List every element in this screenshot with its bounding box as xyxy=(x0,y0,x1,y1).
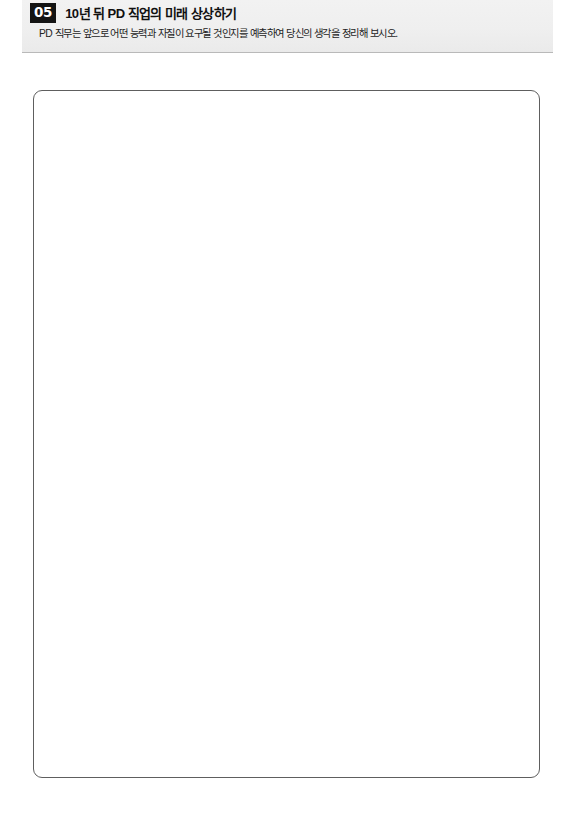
page-title: 10년 뒤 PD 직업의 미래 상상하기 xyxy=(65,7,237,20)
answer-box[interactable] xyxy=(33,90,540,778)
instruction-text: PD 직무는 앞으로 어떤 능력과 자질이 요구될 것인지를 예측하여 당신의 … xyxy=(39,27,398,40)
header-band: 05 10년 뒤 PD 직업의 미래 상상하기 PD 직무는 앞으로 어떤 능력… xyxy=(22,0,553,53)
answer-text-area[interactable] xyxy=(34,91,539,777)
section-number-badge: 05 xyxy=(30,3,56,24)
worksheet-page: 05 10년 뒤 PD 직업의 미래 상상하기 PD 직무는 앞으로 어떤 능력… xyxy=(0,0,572,819)
header-title-row: 05 10년 뒤 PD 직업의 미래 상상하기 xyxy=(30,3,237,23)
header-divider xyxy=(22,52,553,53)
